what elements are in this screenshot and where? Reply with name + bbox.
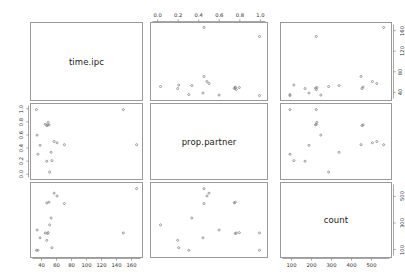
axis-tick-label: 0.4 <box>17 145 25 151</box>
panel-prop-partner-vs-time-ipc <box>150 22 268 101</box>
axis-left-prop-partner: 0.00.20.40.60.81.0 <box>14 103 29 180</box>
axis-tick-label: 500 <box>397 193 405 199</box>
axis-tick-label: 120 <box>97 262 107 268</box>
diagonal-label-time-ipc: time.ipc <box>31 23 142 100</box>
scatter-points-r2c1 <box>151 183 267 257</box>
axis-tick-label: 0.0 <box>154 12 162 18</box>
axis-tick-label: 0.0 <box>17 171 25 177</box>
axis-right-time-ipc: 4080120160 <box>393 22 405 101</box>
axis-tick-label: 200 <box>307 262 317 268</box>
axis-bottom-time-ipc: 406080100120140160 <box>30 258 143 274</box>
panel-time-ipc-vs-prop-partner <box>30 103 143 180</box>
axis-bottom-count: 100200300400500 <box>280 258 392 274</box>
axis-tick-label: 400 <box>347 262 357 268</box>
scatter-points-r0c2 <box>281 23 391 100</box>
axis-tick-label: 0.2 <box>174 12 182 18</box>
axis-tick-label: 100 <box>82 262 92 268</box>
panel-diagonal-count: count <box>280 182 392 258</box>
panel-count-vs-prop-partner <box>280 103 392 180</box>
axis-tick-label: 160 <box>397 28 405 34</box>
axis-tick-label: 160 <box>127 262 137 268</box>
axis-tick-label: 300 <box>327 262 337 268</box>
panel-count-vs-time-ipc <box>280 22 392 101</box>
axis-tick-label: 0.8 <box>236 12 244 18</box>
axis-tick-label: 0.8 <box>17 119 25 125</box>
axis-tick-label: 1.0 <box>256 12 264 18</box>
axis-tick-label: 0.6 <box>215 12 223 18</box>
scatter-points-r1c0 <box>31 104 142 179</box>
scatter-points-r0c1 <box>151 23 267 100</box>
panel-diagonal-time-ipc: time.ipc <box>30 22 143 101</box>
axis-tick-label: 80 <box>68 262 75 268</box>
axis-tick-label: 0.2 <box>17 158 25 164</box>
axis-right-count: 100300500 <box>393 182 405 258</box>
axis-tick-label: 500 <box>367 262 377 268</box>
axis-tick-label: 80 <box>397 69 404 75</box>
axis-tick-label: 120 <box>397 48 405 54</box>
scatter-points-r2c0 <box>31 183 142 257</box>
axis-tick-label: 100 <box>287 262 297 268</box>
scatterplot-matrix: time.ipc prop.partner count 0.00.20.40.6… <box>0 0 405 278</box>
panel-prop-partner-vs-count <box>150 182 268 258</box>
axis-top-prop-partner: 0.00.20.40.60.81.0 <box>150 6 268 22</box>
axis-tick-label: 0.4 <box>195 12 203 18</box>
axis-tick-label: 1.0 <box>17 106 25 112</box>
axis-tick-label: 300 <box>397 220 405 226</box>
axis-tick-label: 60 <box>53 262 60 268</box>
axis-tick-label: 40 <box>38 262 45 268</box>
axis-tick-label: 140 <box>112 262 122 268</box>
diagonal-label-count: count <box>281 183 391 257</box>
axis-tick-label: 40 <box>397 89 404 95</box>
panel-time-ipc-vs-count <box>30 182 143 258</box>
axis-tick-label: 0.6 <box>17 132 25 138</box>
diagonal-label-prop-partner: prop.partner <box>151 104 267 179</box>
axis-tick-label: 100 <box>397 247 405 253</box>
panel-diagonal-prop-partner: prop.partner <box>150 103 268 180</box>
scatter-points-r1c2 <box>281 104 391 179</box>
